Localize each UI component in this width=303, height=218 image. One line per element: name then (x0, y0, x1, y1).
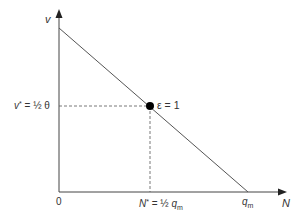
qm-label: qm (242, 197, 253, 207)
qm-symbol: q (242, 196, 248, 207)
y-axis-label: v (45, 14, 51, 25)
v-star-label: v* = ½ θ (14, 101, 50, 111)
v-star-sup: * (19, 100, 22, 107)
equilibrium-point (146, 102, 154, 110)
demand-line (59, 28, 248, 192)
y-axis-arrow-icon (56, 9, 63, 18)
n-star-label: N* = ½ qm (139, 199, 183, 209)
n-star-value: = ½ (152, 198, 172, 209)
n-star-sub: m (177, 204, 183, 211)
x-axis-label: N (282, 198, 290, 209)
elasticity-label: ε = 1 (157, 100, 180, 111)
n-star-sup: * (146, 198, 149, 205)
qm-sub: m (248, 202, 254, 209)
v-star-value: = ½ θ (25, 100, 50, 111)
x-axis-arrow-icon (278, 189, 287, 196)
origin-label: 0 (56, 197, 62, 207)
